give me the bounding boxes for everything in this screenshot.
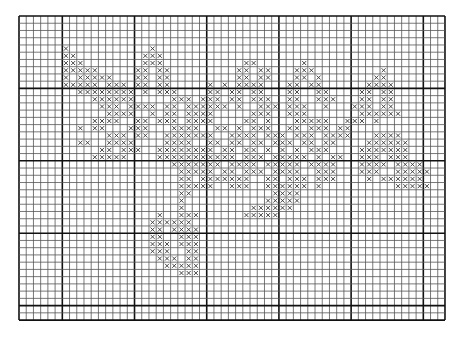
stitch-x-icon [360,155,364,159]
stitch-x-icon [172,220,176,224]
stitch-x-icon [252,83,256,87]
stitch-x-icon [165,148,169,152]
stitch-x-icon [216,97,220,101]
stitch-x-icon [252,112,256,116]
stitch-x-icon [107,83,111,87]
stitch-x-icon [114,83,118,87]
stitch-x-icon [295,199,299,203]
stitch-x-icon [187,191,191,195]
stitch-x-icon [331,162,335,166]
stitch-x-icon [374,170,378,174]
stitch-x-icon [100,104,104,108]
stitch-x-icon [208,97,212,101]
stitch-x-icon [158,119,162,123]
stitch-x-icon [252,213,256,217]
stitch-x-icon [396,133,400,137]
stitch-x-icon [252,162,256,166]
stitch-x-icon [216,104,220,108]
stitch-x-icon [158,90,162,94]
stitch-x-icon [317,162,321,166]
stitch-x-icon [302,133,306,137]
stitch-x-icon [389,112,393,116]
stitch-x-icon [389,155,393,159]
stitch-x-icon [172,90,176,94]
stitch-x-icon [302,104,306,108]
stitch-x-icon [151,242,155,246]
stitch-x-icon [172,141,176,145]
stitch-x-icon [266,104,270,108]
stitch-x-icon [114,112,118,116]
stitch-x-icon [396,170,400,174]
stitch-x-icon [187,133,191,137]
stitch-x-icon [360,170,364,174]
stitch-x-icon [78,90,82,94]
stitch-x-icon [158,249,162,253]
stitch-x-icon [237,97,241,101]
stitch-x-icon [165,76,169,80]
stitch-x-icon [179,162,183,166]
stitch-x-icon [201,97,205,101]
stitch-x-icon [165,83,169,87]
stitch-x-icon [201,184,205,188]
stitch-x-icon [194,119,198,123]
stitch-x-icon [244,133,248,137]
stitch-x-icon [187,170,191,174]
stitch-x-icon [360,97,364,101]
stitch-x-icon [223,83,227,87]
stitch-x-icon [143,104,147,108]
stitch-x-icon [86,90,90,94]
stitch-x-icon [317,184,321,188]
stitch-x-icon [230,141,234,145]
stitch-x-icon [187,119,191,123]
stitch-x-icon [309,141,313,145]
stitch-x-icon [288,191,292,195]
stitch-x-icon [107,133,111,137]
stitch-x-icon [302,177,306,181]
stitch-x-icon [259,141,263,145]
stitch-x-icon [201,155,205,159]
stitch-x-icon [143,119,147,123]
stitch-x-icon [179,235,183,239]
stitch-x-icon [179,199,183,203]
stitch-x-icon [86,83,90,87]
stitch-x-icon [230,184,234,188]
stitch-x-icon [252,155,256,159]
stitch-x-icon [172,162,176,166]
stitch-x-icon [288,170,292,174]
stitch-x-icon [244,155,248,159]
stitch-x-icon [259,112,263,116]
stitch-x-icon [295,90,299,94]
stitch-x-icon [237,68,241,72]
stitch-x-icon [324,170,328,174]
stitch-x-icon [129,112,133,116]
stitch-x-icon [382,162,386,166]
stitch-x-icon [107,104,111,108]
stitch-x-icon [338,126,342,130]
stitch-x-icon [201,162,205,166]
stitch-x-icon [252,126,256,130]
stitch-x-icon [100,119,104,123]
stitch-x-icon [360,162,364,166]
stitch-x-icon [122,112,126,116]
stitch-x-icon [273,184,277,188]
stitch-x-icon [107,112,111,116]
stitch-x-icon [223,177,227,181]
stitch-x-icon [86,68,90,72]
stitch-x-icon [374,112,378,116]
stitch-x-icon [295,177,299,181]
stitch-x-icon [389,83,393,87]
stitch-x-icon [309,126,313,130]
stitch-x-icon [64,83,68,87]
stitch-x-icon [367,112,371,116]
stitch-x-icon [143,126,147,130]
stitch-x-icon [158,61,162,65]
stitch-x-icon [122,133,126,137]
stitch-x-icon [71,83,75,87]
stitch-x-icon [374,148,378,152]
stitch-x-icon [165,104,169,108]
stitch-x-icon [143,133,147,137]
stitch-x-icon [187,97,191,101]
stitch-x-icon [244,170,248,174]
stitch-x-icon [331,155,335,159]
stitch-x-icon [136,76,140,80]
